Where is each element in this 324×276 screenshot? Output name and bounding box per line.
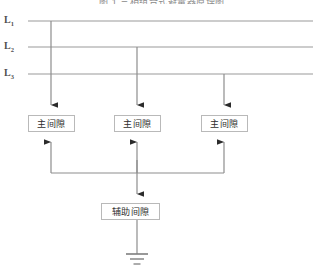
main-gap-3: 主间隙: [201, 115, 248, 132]
figure-canvas: 图 1 三相组合式避雷器原理图: [0, 0, 324, 276]
main-gap-2-label: 主间隙: [123, 117, 152, 130]
phase-label-l3-subscript: 3: [11, 73, 14, 80]
phase-label-l1-letter: L: [4, 14, 11, 25]
phase-drop-leads: [51, 21, 224, 105]
phase-label-l2-letter: L: [4, 40, 11, 51]
main-gap-2: 主间隙: [114, 115, 161, 132]
main-gap-3-label: 主间隙: [210, 117, 239, 130]
phase-conductors: [28, 21, 313, 74]
auxiliary-gap: 辅助间隙: [101, 203, 160, 220]
phase-label-l2: L2: [4, 40, 14, 53]
main-gap-1-label: 主间隙: [37, 117, 66, 130]
phase-label-l3-letter: L: [4, 67, 11, 78]
phase-label-l2-subscript: 2: [11, 46, 14, 53]
auxiliary-gap-label: 辅助间隙: [112, 205, 150, 218]
ground-icon: [126, 254, 148, 264]
phase-label-l1-subscript: 1: [11, 20, 14, 27]
phase-label-l1: L1: [4, 14, 14, 27]
phase-label-l3: L3: [4, 67, 14, 80]
main-gap-1: 主间隙: [28, 115, 75, 132]
schematic-drawing: [0, 0, 324, 276]
